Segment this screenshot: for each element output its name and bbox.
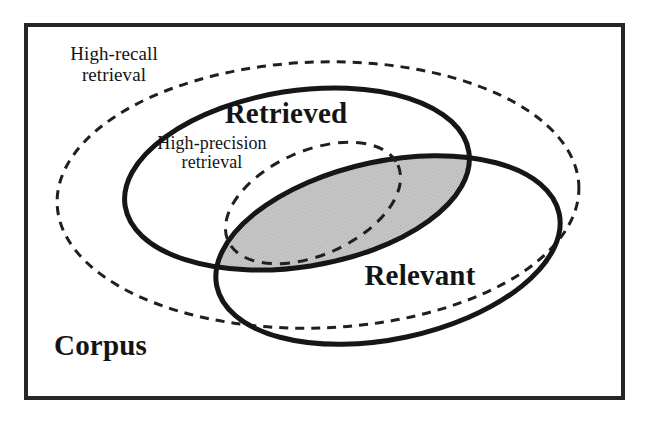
high-recall-line-1: High-recall (70, 43, 158, 64)
high-precision-retrieval-label: High-precisionretrieval (130, 134, 294, 173)
corpus-label: Corpus (54, 330, 204, 361)
high-precision-line-1: High-precision (157, 133, 266, 153)
venn-diagram-figure: High-recallretrieval High-precisionretri… (0, 0, 645, 421)
retrieved-label: Retrieved (196, 98, 376, 129)
high-recall-line-2: retrieval (82, 64, 146, 85)
high-precision-line-2: retrieval (182, 152, 243, 172)
relevant-label: Relevant (334, 260, 506, 291)
high-recall-retrieval-label: High-recallretrieval (44, 44, 184, 85)
